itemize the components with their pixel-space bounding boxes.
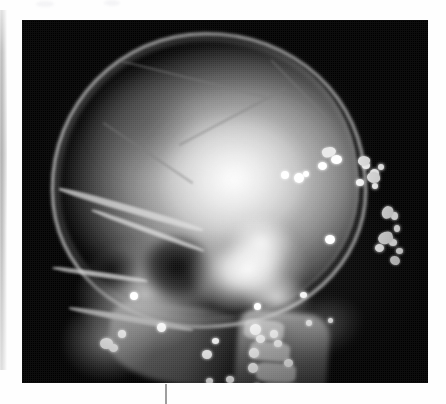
metallic-pellet xyxy=(356,179,364,186)
metallic-pellet xyxy=(248,363,258,373)
metallic-pellet xyxy=(394,225,400,232)
metallic-pellet xyxy=(254,303,261,310)
lateral-skull-radiograph[interactable] xyxy=(22,20,428,383)
metallic-pellet xyxy=(375,244,384,252)
radiograph-alt-text: Lateral skull radiograph showing multipl… xyxy=(0,0,1,1)
metallic-pellet xyxy=(212,338,219,344)
metallic-pellet xyxy=(118,330,126,338)
metallic-pellet xyxy=(202,350,212,359)
metallic-pellet xyxy=(206,378,213,383)
metallic-pellet xyxy=(157,323,166,332)
page-canvas: Lateral skull radiograph showing multipl… xyxy=(0,0,446,404)
scan-artifact xyxy=(36,1,54,7)
vertical-rule xyxy=(165,384,167,404)
metallic-pellet xyxy=(378,164,384,170)
metallic-pellet xyxy=(300,292,307,298)
metallic-pellet xyxy=(396,248,403,254)
metallic-pellet xyxy=(306,320,312,326)
metallic-pellet xyxy=(284,359,293,367)
metallic-pellet xyxy=(318,162,327,170)
metallic-pellet xyxy=(226,376,234,383)
metallic-pellet xyxy=(250,324,261,335)
scanned-page-edge-strip xyxy=(0,10,7,370)
metallic-pellet xyxy=(372,183,378,189)
radiograph-film xyxy=(22,20,428,383)
metallic-pellet xyxy=(256,335,265,343)
metallic-pellet xyxy=(109,344,118,352)
metallic-pellet xyxy=(130,292,138,300)
metallic-pellet xyxy=(281,171,289,179)
metallic-pellet xyxy=(331,155,342,164)
metallic-pellet xyxy=(270,330,278,338)
scan-artifact xyxy=(104,0,120,6)
metallic-pellet xyxy=(274,340,282,347)
metallic-pellet xyxy=(325,235,335,244)
metallic-pellet xyxy=(294,173,304,183)
metallic-pellet xyxy=(249,348,259,358)
metallic-pellet xyxy=(328,318,333,323)
